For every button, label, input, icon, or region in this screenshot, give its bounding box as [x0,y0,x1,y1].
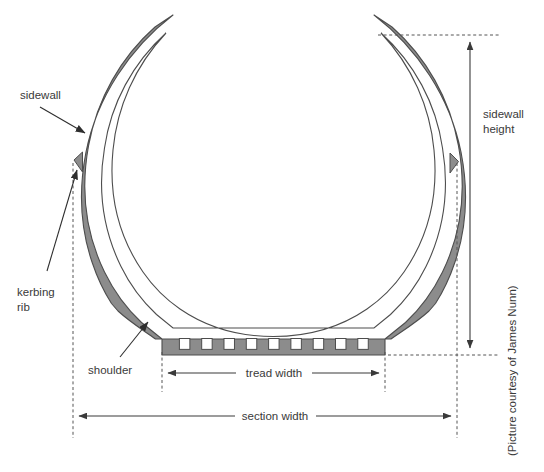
tyre-body-group [74,15,465,355]
leader-line-shoulder [120,322,148,357]
label-tread-width: tread width [246,367,302,379]
tread-groove [224,339,234,350]
tyre-inner-cavity [102,33,446,337]
dimension-lines-group [79,42,470,416]
tread-groove [246,339,256,350]
tyre-diagram-canvas: sidewall kerbing rib shoulder sidewall h… [0,0,544,472]
tread-groove [269,339,279,350]
picture-credit: (Picture courtesy of James Nunn) [506,285,518,456]
label-section-width: section width [242,410,308,422]
tread-grooves-group [179,339,368,350]
leader-line-sidewall [40,107,85,133]
tread-groove [202,339,212,350]
label-kerbing-rib-line2: rib [17,301,30,313]
tread-groove [179,339,189,350]
label-shoulder: shoulder [88,364,132,376]
kerbing-rib-left [74,152,83,172]
tyre-cross-section-diagram: sidewall kerbing rib shoulder sidewall h… [0,0,544,472]
tread-groove [335,339,345,350]
tread-groove [313,339,323,350]
tread-groove [291,339,301,350]
tread-groove [358,339,368,350]
label-kerbing-rib-line1: kerbing [17,286,55,298]
label-sidewall: sidewall [20,89,61,101]
label-sidewall-height-line1: sidewall [483,108,524,120]
label-sidewall-height-line2: height [483,123,515,135]
